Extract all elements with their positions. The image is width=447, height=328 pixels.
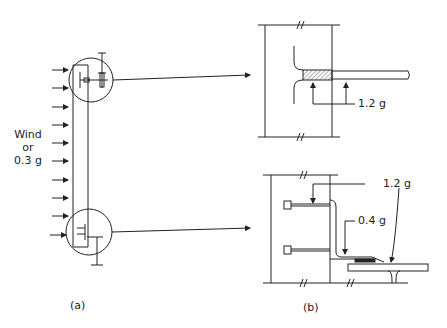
wind-load-label: Wind or 0.3 g bbox=[8, 128, 48, 167]
wind-label-line3: 0.3 g bbox=[8, 154, 48, 167]
wind-label-line2: or bbox=[8, 141, 48, 154]
top-leader-arrow bbox=[113, 75, 250, 80]
top-connection-callout bbox=[69, 53, 113, 102]
top-detail-force-label: 1.2 g bbox=[358, 98, 386, 109]
top-detail bbox=[258, 21, 410, 141]
wind-load-arrows bbox=[50, 70, 68, 235]
bottom-leader-arrow bbox=[112, 228, 250, 232]
wind-label-line1: Wind bbox=[8, 128, 48, 141]
diagram-canvas bbox=[0, 0, 447, 328]
wall-panel bbox=[73, 65, 88, 247]
panel-b-caption: (b) bbox=[303, 302, 319, 313]
panel-a-caption: (a) bbox=[70, 300, 85, 311]
bottom-detail-force-label-upper: 1.2 g bbox=[383, 178, 411, 189]
bottom-detail-force-label-lower: 0.4 g bbox=[358, 215, 386, 226]
